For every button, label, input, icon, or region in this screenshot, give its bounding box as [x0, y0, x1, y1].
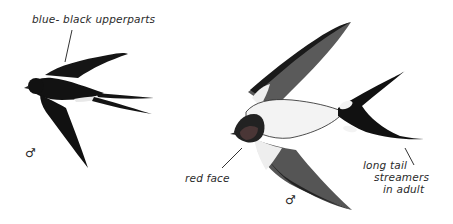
male-symbol-right: ♂: [285, 193, 296, 207]
small-swallow: [24, 30, 154, 168]
red-face-label: red face: [185, 173, 230, 184]
tail-label-line2: streamers: [374, 172, 429, 183]
male-symbol-left: ♂: [25, 146, 36, 160]
tail-label-line1: long tail: [363, 160, 407, 171]
swallow-illustration: blue- black upperparts ♂ red face ♂ long…: [0, 0, 453, 224]
upperparts-label: blue- black upperparts: [32, 14, 155, 25]
tail-label-line3: in adult: [383, 184, 424, 195]
